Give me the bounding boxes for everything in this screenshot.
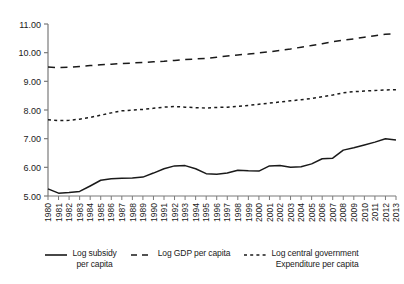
legend-swatch-long-dash <box>131 249 153 261</box>
x-tick-label: 2000 <box>254 203 264 222</box>
x-tick-label: 1984 <box>85 203 95 222</box>
x-tick-label: 1995 <box>201 203 211 222</box>
y-tick-label: 7.00 <box>23 134 41 144</box>
x-tick-label: 1983 <box>75 203 85 222</box>
legend-item-central-government-expenditure: Log central government Expenditure per c… <box>244 248 358 269</box>
y-tick-label: 6.00 <box>23 163 41 173</box>
legend-item-subsidy: Log subsidy per capita <box>45 248 116 269</box>
x-tick-label: 2010 <box>360 203 370 222</box>
y-axis: 5.006.007.008.009.0010.0011.00 <box>18 20 48 202</box>
x-tick-label: 1992 <box>170 203 180 222</box>
legend-item-gdp: Log GDP per capita <box>131 248 231 261</box>
x-tick-label: 1998 <box>233 203 243 222</box>
x-tick-label: 2006 <box>317 203 327 222</box>
x-tick-label: 2011 <box>370 203 380 222</box>
series-line-1 <box>48 34 396 68</box>
series-line-2 <box>48 90 396 121</box>
x-tick-label: 1997 <box>222 203 232 222</box>
line-chart-plot: 5.006.007.008.009.0010.0011.00 198019811… <box>0 0 404 243</box>
series-line-0 <box>48 139 396 193</box>
x-tick-label: 2013 <box>391 203 401 222</box>
x-tick-label: 1989 <box>138 203 148 222</box>
x-tick-label: 1985 <box>96 203 106 222</box>
x-tick-label: 2005 <box>307 203 317 222</box>
legend-label-central-government-expenditure: Log central government Expenditure per c… <box>271 248 358 269</box>
x-tick-label: 1999 <box>244 203 254 222</box>
x-tick-label: 1980 <box>43 203 53 222</box>
x-tick-label: 2007 <box>328 203 338 222</box>
x-tick-label: 2003 <box>286 203 296 222</box>
data-series-group <box>48 34 396 193</box>
chart-legend: Log subsidy per capita Log GDP per capit… <box>0 243 404 284</box>
y-tick-label: 10.00 <box>18 48 41 58</box>
x-tick-label: 2012 <box>381 203 391 222</box>
y-tick-label: 9.00 <box>23 77 41 87</box>
x-tick-label: 1987 <box>117 203 127 222</box>
x-tick-label: 1988 <box>128 203 138 222</box>
legend-label-gdp: Log GDP per capita <box>158 248 231 259</box>
x-tick-label: 1991 <box>159 203 169 222</box>
x-tick-label: 1993 <box>180 203 190 222</box>
chart-figure: 5.006.007.008.009.0010.0011.00 198019811… <box>0 0 404 284</box>
y-tick-label: 11.00 <box>19 20 41 30</box>
x-tick-label: 2004 <box>296 203 306 222</box>
x-tick-label: 2009 <box>349 203 359 222</box>
legend-swatch-short-dash <box>244 249 266 261</box>
y-tick-label: 5.00 <box>23 192 41 202</box>
y-tick-label: 8.00 <box>23 106 41 116</box>
x-tick-label: 1990 <box>149 203 159 222</box>
legend-swatch-solid <box>45 249 67 261</box>
x-tick-label: 1982 <box>64 203 74 222</box>
x-tick-label: 1994 <box>191 203 201 222</box>
x-tick-label: 1981 <box>54 203 64 222</box>
x-tick-label: 2001 <box>265 203 275 222</box>
x-tick-label: 1986 <box>106 203 116 222</box>
x-axis: 1980198119821983198419851986198719881989… <box>43 196 401 222</box>
x-tick-label: 2002 <box>275 203 285 222</box>
x-tick-label: 2008 <box>338 203 348 222</box>
x-tick-label: 1996 <box>212 203 222 222</box>
legend-label-subsidy: Log subsidy per capita <box>72 248 116 269</box>
